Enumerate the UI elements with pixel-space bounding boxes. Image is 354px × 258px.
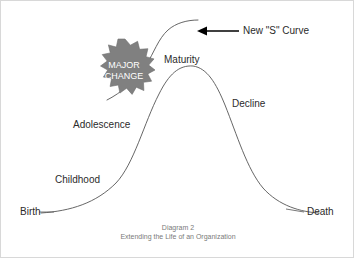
badge-line-2: CHANGE bbox=[104, 71, 144, 82]
stage-label-maturity: Maturity bbox=[164, 55, 200, 65]
stage-label-childhood: Childhood bbox=[55, 175, 100, 185]
badge-line-1: MAJOR bbox=[104, 60, 144, 71]
diagram-canvas bbox=[1, 1, 354, 258]
stage-label-birth: Birth bbox=[20, 207, 41, 217]
caption-title: Diagram 2 bbox=[1, 223, 354, 232]
stage-label-adolescence: Adolescence bbox=[73, 120, 130, 130]
lifecycle-diagram: MAJOR CHANGE Birth Childhood Adolescence… bbox=[0, 0, 354, 258]
stage-label-death: Death bbox=[307, 207, 334, 217]
caption-subtitle: Extending the Life of an Organization bbox=[1, 232, 354, 241]
organization-lifecycle-curve bbox=[41, 66, 319, 213]
stage-label-decline: Decline bbox=[232, 99, 265, 109]
new-s-curve-arrow bbox=[197, 26, 239, 35]
badge-label: MAJOR CHANGE bbox=[104, 60, 144, 82]
new-s-curve-label: New "S" Curve bbox=[243, 26, 309, 36]
